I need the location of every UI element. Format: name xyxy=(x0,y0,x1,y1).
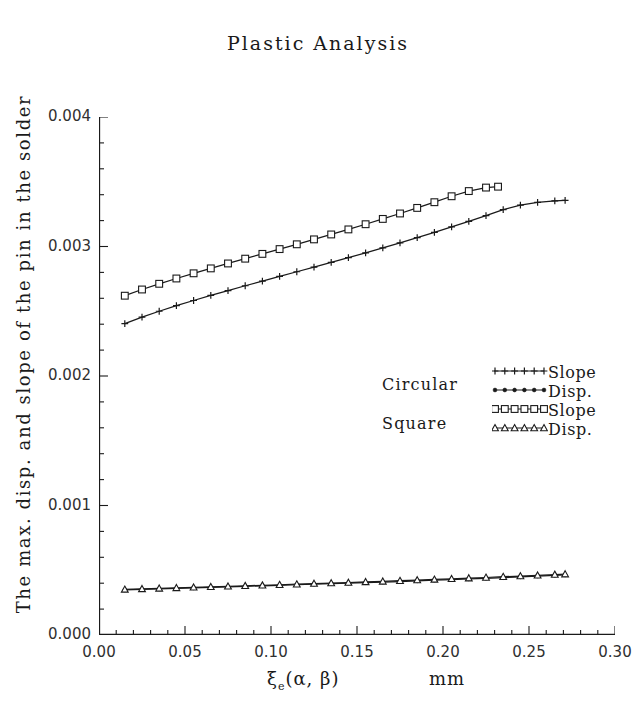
y-tick-label: 0.003 xyxy=(25,237,91,255)
x-axis-unit: mm xyxy=(429,668,465,689)
y-axis-title-text: The max. disp. and slope of the pin in t… xyxy=(13,95,34,613)
legend-entry-circular-slope: Slope xyxy=(548,363,596,382)
y-axis-ticks xyxy=(99,117,108,635)
series-square-slope xyxy=(121,183,501,299)
chart-figure: Plastic Analysis The max. disp. and slop… xyxy=(0,0,636,706)
x-axis-title: ξe(α, β) mm xyxy=(99,668,615,698)
chart-legend: Circular Square Slope Disp. Slope Disp. xyxy=(380,362,630,442)
chart-title: Plastic Analysis xyxy=(0,32,636,54)
x-tick-label: 0.10 xyxy=(238,643,304,661)
series-square-disp xyxy=(121,571,568,592)
legend-sample-lines xyxy=(492,362,548,442)
y-tick-label: 0.002 xyxy=(25,366,91,384)
x-tick-label: 0.05 xyxy=(152,643,218,661)
legend-entry-square-disp: Disp. xyxy=(548,420,592,439)
x-axis-symbol-xi: ξ xyxy=(267,668,278,689)
legend-group-label-square: Square xyxy=(382,414,447,433)
legend-entry-circular-disp: Disp. xyxy=(548,382,592,401)
x-axis-ticks xyxy=(99,626,615,635)
y-tick-label: 0.001 xyxy=(25,496,91,514)
legend-line-3 xyxy=(492,425,547,431)
chart-title-text: Plastic Analysis xyxy=(227,32,409,54)
y-tick-label: 0.000 xyxy=(25,625,91,643)
legend-group-label-circular: Circular xyxy=(382,375,458,394)
x-tick-label: 0.25 xyxy=(496,643,562,661)
y-tick-label: 0.004 xyxy=(25,107,91,125)
legend-line-1 xyxy=(493,388,546,392)
legend-entry-square-slope: Slope xyxy=(548,401,596,420)
x-axis-symbol: ξe(α, β) xyxy=(267,668,340,693)
legend-line-0 xyxy=(492,368,547,375)
x-axis-symbol-args: (α, β) xyxy=(285,668,339,689)
series-circular-slope xyxy=(121,197,568,327)
legend-line-2 xyxy=(492,406,547,413)
x-tick-label: 0.00 xyxy=(66,643,132,661)
x-tick-label: 0.30 xyxy=(582,643,636,661)
x-tick-label: 0.15 xyxy=(324,643,390,661)
x-tick-label: 0.20 xyxy=(410,643,476,661)
